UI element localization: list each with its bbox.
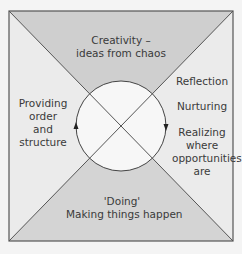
label-line: ideas from chaos	[70, 47, 172, 60]
right-quadrant-label-realizing: Realizing where opportunities are	[172, 126, 232, 178]
label-line: Realizing	[172, 126, 232, 139]
label-line: where	[172, 139, 232, 152]
label-line: Reflection	[172, 75, 232, 88]
label-line: order	[14, 110, 72, 123]
label-line: 'Doing'	[66, 195, 178, 208]
bottom-quadrant-label: 'Doing' Making things happen	[66, 195, 178, 221]
left-quadrant-label: Providing order and structure	[14, 97, 72, 149]
right-quadrant-label-reflection: Reflection	[172, 75, 232, 88]
label-line: structure	[14, 136, 72, 149]
label-line: Making things happen	[66, 208, 178, 221]
label-line: opportunities	[172, 152, 232, 165]
label-line: Nurturing	[172, 100, 232, 113]
label-line: Providing	[14, 97, 72, 110]
right-quadrant-label-nurturing: Nurturing	[172, 100, 232, 113]
label-line: are	[172, 165, 232, 178]
label-line: Creativity –	[70, 34, 172, 47]
label-line: and	[14, 123, 72, 136]
top-quadrant-label: Creativity – ideas from chaos	[70, 34, 172, 60]
